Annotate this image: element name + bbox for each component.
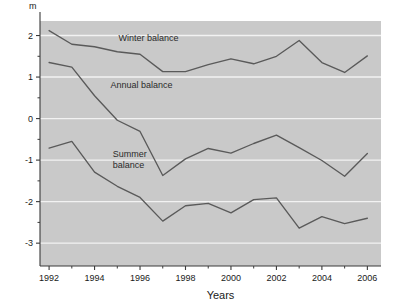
x-tick-label: 1998 [175, 273, 195, 283]
series-label-winter-balance: Winter balance [118, 33, 178, 43]
x-tick-label: 2006 [357, 273, 377, 283]
x-tick-label: 2004 [312, 273, 332, 283]
y-tick-label: 0 [28, 114, 33, 124]
x-tick-label: 1992 [39, 273, 59, 283]
y-axis-unit-label: m [29, 1, 37, 11]
y-tick-label: -2 [25, 197, 33, 207]
plot-area-background [40, 21, 381, 266]
y-tick-label: -1 [25, 155, 33, 165]
x-tick-label: 1994 [85, 273, 105, 283]
glacier-mass-balance-chart: 210-1-2-3 199219941996199820002002200420… [0, 0, 402, 307]
series-label-annual-balance: Annual balance [110, 80, 172, 90]
x-tick-label: 2002 [266, 273, 286, 283]
y-tick-label: 1 [28, 72, 33, 82]
x-tick-label: 2000 [221, 273, 241, 283]
y-tick-label: 2 [28, 31, 33, 41]
x-tick-label: 1996 [130, 273, 150, 283]
x-axis-title: Years [207, 289, 235, 301]
series-label-summer-balance: Summerbalance [113, 149, 147, 170]
y-tick-label: -3 [25, 238, 33, 248]
chart-figure: 210-1-2-3 199219941996199820002002200420… [0, 0, 402, 307]
